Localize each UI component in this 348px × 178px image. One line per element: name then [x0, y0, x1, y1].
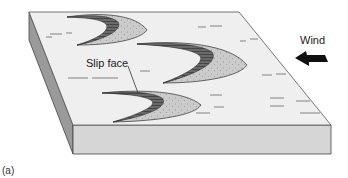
- panel-label: (a): [2, 165, 14, 176]
- wind-arrow-icon: [295, 51, 328, 66]
- block-front-face: [73, 125, 331, 154]
- barchan-dune-diagram: Wind Slip face (a): [0, 0, 348, 178]
- diagram-canvas: [0, 0, 348, 178]
- wind-label: Wind: [300, 34, 325, 46]
- slip-face-label: Slip face: [86, 57, 128, 69]
